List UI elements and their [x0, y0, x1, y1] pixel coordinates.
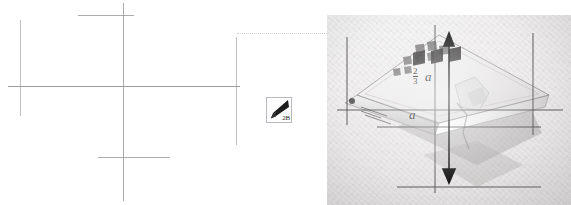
pencil-tool-icon[interactable]: 2B: [266, 97, 292, 123]
construction-line-right-vertical: [236, 37, 237, 145]
construction-line-bottom-tick: [98, 157, 170, 158]
figure-canvas: 2B: [0, 0, 571, 205]
construction-line-top-tick: [78, 15, 134, 16]
pencil-grade-label: 2B: [282, 114, 290, 122]
pencil-construction-lines: 2B: [0, 0, 327, 205]
construction-line-left-vertical: [20, 20, 21, 116]
construction-line-main-horizontal: [8, 86, 240, 87]
photo-vignette: [327, 15, 571, 205]
dotted-leader-line: [237, 33, 327, 34]
reference-photograph: a 2 3 a: [327, 15, 571, 205]
construction-line-center-vertical: [123, 3, 124, 201]
